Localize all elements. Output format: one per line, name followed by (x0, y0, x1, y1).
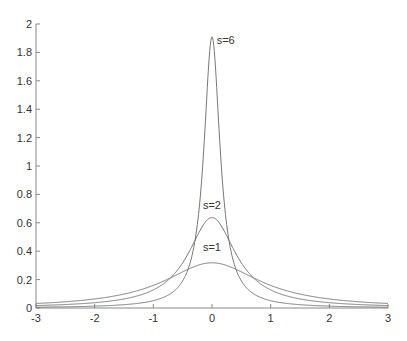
y-tick-label: 0.4 (17, 245, 32, 257)
curve-label-s-6: s=6 (217, 34, 235, 46)
y-axis: 00.20.40.60.811.21.41.61.82 (17, 18, 40, 314)
cauchy-density-chart: 00.20.40.60.811.21.41.61.82 -3-2-10123 s… (0, 0, 407, 341)
y-tick-label: 1.8 (17, 46, 32, 58)
curve-s-2 (36, 218, 388, 306)
x-tick-label: 1 (268, 312, 274, 324)
x-tick-label: 0 (209, 312, 215, 324)
plot-curves (36, 37, 388, 307)
y-tick-label: 0.2 (17, 274, 32, 286)
y-tick-label: 1.2 (17, 132, 32, 144)
y-tick-label: 1.4 (17, 103, 32, 115)
curve-s-1 (36, 263, 388, 304)
y-tick-label: 0.6 (17, 217, 32, 229)
x-tick-label: -2 (90, 312, 100, 324)
curve-s-6 (36, 37, 388, 307)
x-tick-label: -1 (148, 312, 158, 324)
y-tick-label: 1.6 (17, 75, 32, 87)
x-tick-label: -3 (31, 312, 41, 324)
y-tick-label: 2 (26, 18, 32, 30)
y-tick-label: 1 (26, 160, 32, 172)
x-tick-label: 2 (326, 312, 332, 324)
curve-label-s-1: s=1 (203, 241, 221, 253)
y-tick-label: 0.8 (17, 188, 32, 200)
x-tick-label: 3 (385, 312, 391, 324)
curve-label-s-2: s=2 (203, 199, 221, 211)
x-axis: -3-2-10123 (31, 304, 391, 324)
curve-labels: s=1s=2s=6 (203, 34, 235, 253)
